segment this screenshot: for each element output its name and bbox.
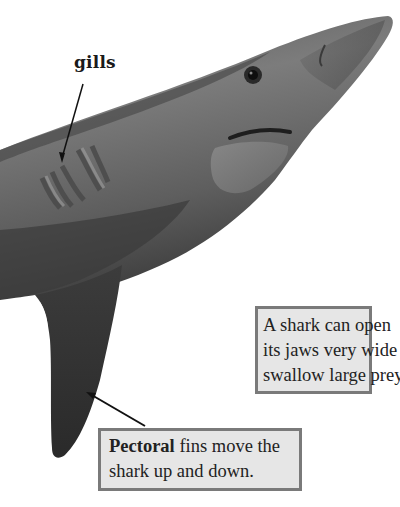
pectoral-pointer bbox=[86, 392, 145, 426]
shark-anatomy-figure: gills A shark can open its jaws very wid… bbox=[0, 0, 400, 507]
gills-label: gills bbox=[74, 52, 116, 72]
fins-callout-line-1-rest: fins move the bbox=[175, 436, 280, 456]
jaws-callout-line-1: A shark can open bbox=[263, 313, 369, 338]
fins-callout-box: Pectoral fins move the shark up and down… bbox=[98, 428, 302, 491]
jaws-callout-line-2: its jaws very wide to bbox=[263, 338, 369, 363]
pectoral-term: Pectoral bbox=[109, 436, 175, 456]
jaws-callout-box: A shark can open its jaws very wide to s… bbox=[255, 306, 372, 394]
jaws-callout-line-3: swallow large prey. bbox=[263, 363, 369, 388]
fins-callout-line-1: Pectoral fins move the bbox=[109, 434, 299, 459]
shark-jaw bbox=[211, 142, 288, 193]
fins-callout-line-2: shark up and down. bbox=[109, 459, 299, 484]
